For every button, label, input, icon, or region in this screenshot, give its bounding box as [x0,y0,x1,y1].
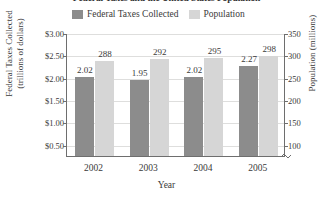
x-tick-label-2002: 2002 [84,163,103,173]
y-axis-left-title: Federal Taxes Collected (trillions of do… [4,0,25,119]
legend-entry-federal-taxes-collected: Federal Taxes Collected [72,10,179,20]
bar-value-population-2004: 295 [208,47,222,56]
bar-population-2002[interactable] [95,61,114,156]
y-tick-right-4: 150 [288,119,322,128]
x-tick-label-2003: 2003 [139,163,158,173]
bar-chart: Federal Taxes and the United States Popu… [0,0,333,199]
y-tick-left-5: $0.50 [30,142,64,151]
y-tick-right-2: 250 [288,75,322,84]
bar-value-population-2003: 292 [153,48,167,57]
bar-population-2004[interactable] [204,58,223,156]
bar-group-2003: 1.95292 [130,34,169,156]
bar-population-2005[interactable] [259,56,278,156]
bar-value-federal-taxes-2002: 2.02 [77,66,93,75]
bar-value-population-2002: 288 [98,50,112,59]
bar-value-federal-taxes-2005: 2.27 [241,55,257,64]
legend-swatch-population [189,10,200,19]
tick-mark-right [284,34,288,35]
legend-swatch-federal-taxes-collected [72,10,83,19]
bar-federal-taxes-2003[interactable] [130,80,149,156]
tick-mark-right [284,79,288,80]
y-tick-left-1: $2.50 [30,52,64,61]
bar-federal-taxes-2002[interactable] [75,77,94,156]
y-tick-right-5: 100 [288,142,322,151]
y-tick-left-2: $2.00 [30,75,64,84]
bar-federal-taxes-2004[interactable] [184,77,203,156]
chart-legend: Federal Taxes Collected Population [72,10,245,20]
y-axis-left-ticks: $3.00$2.50$2.00$1.50$1.00$0.50 [30,28,64,161]
y-tick-right-0: 350 [288,30,322,39]
y-axis-right-ticks: 350300250200150100 [288,28,322,161]
legend-label-population: Population [204,10,245,20]
y-tick-right-3: 200 [288,97,322,106]
y-tick-left-4: $1.00 [30,119,64,128]
x-tick-label-2004: 2004 [193,163,212,173]
y-axis-left-title-line1: Federal Taxes Collected [4,0,15,119]
x-tick-label-2005: 2005 [248,163,267,173]
x-axis-title: Year [0,180,333,190]
plot-area: 2.022881.952922.022952.27298 [66,34,285,157]
y-tick-left-3: $1.50 [30,97,64,106]
y-axis-left-title-line2: (trillions of dollars) [14,0,25,119]
bar-value-population-2005: 298 [262,45,276,54]
bar-group-2004: 2.02295 [184,34,223,156]
bar-group-2002: 2.02288 [75,34,114,156]
x-axis-category-labels: 2002200320042005 [66,163,285,177]
bar-federal-taxes-2005[interactable] [239,66,258,156]
tick-mark-right [284,101,288,102]
bar-groups: 2.022881.952922.022952.27298 [67,34,284,156]
bar-value-federal-taxes-2003: 1.95 [132,69,148,78]
y-tick-right-1: 300 [288,52,322,61]
bar-group-2005: 2.27298 [239,34,278,156]
axis-break-icon [280,146,292,159]
legend-label-federal-taxes-collected: Federal Taxes Collected [87,10,179,20]
tick-mark-right [284,56,288,57]
tick-mark-right [284,123,288,124]
y-tick-left-0: $3.00 [30,30,64,39]
bar-population-2003[interactable] [150,59,169,156]
bar-value-federal-taxes-2004: 2.02 [187,66,203,75]
legend-entry-population: Population [189,10,245,20]
chart-title: Federal Taxes and the United States Popu… [0,0,333,3]
